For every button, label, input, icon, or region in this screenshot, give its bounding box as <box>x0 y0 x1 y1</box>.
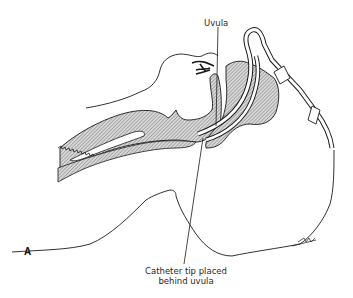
catheter-label-line1: Catheter tip placed <box>138 266 234 276</box>
artist-signature <box>292 238 316 246</box>
nasal-turbinates <box>192 62 214 74</box>
medical-illustration <box>0 0 353 298</box>
tape-2 <box>308 106 320 124</box>
catheter-label-line2: behind uvula <box>138 276 234 286</box>
uvula-label: Uvula <box>204 18 228 28</box>
catheter-leader-line <box>184 138 203 264</box>
catheter-tip-label: Catheter tip placed behind uvula <box>138 266 234 286</box>
panel-letter: A <box>24 246 31 257</box>
